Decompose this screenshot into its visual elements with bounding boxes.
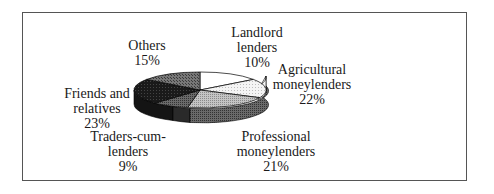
pie-top [134,72,266,108]
label-friends-line2: relatives [57,101,137,116]
label-others-line1: Others [122,38,172,53]
label-traders: Traders-cum- lenders 9% [88,129,168,174]
label-friends: Friends and relatives 23% [57,86,137,131]
label-agricultural-line1: Agricultural [272,62,352,77]
label-traders-pct: 9% [88,159,168,174]
label-others: Others 15% [122,38,172,68]
label-professional: Professional moneylenders 21% [236,129,316,174]
label-landlord-line1: Landlord [222,25,292,40]
label-professional-pct: 21% [236,159,316,174]
label-others-pct: 15% [122,53,172,68]
label-landlord-line2: lenders [222,40,292,55]
label-agricultural-line2: moneylenders [272,77,352,92]
label-agricultural: Agricultural moneylenders 22% [272,62,352,107]
label-traders-line2: lenders [88,144,168,159]
label-professional-line1: Professional [236,129,316,144]
label-professional-line2: moneylenders [236,144,316,159]
label-traders-line1: Traders-cum- [88,129,168,144]
label-friends-pct: 23% [57,116,137,131]
label-friends-line1: Friends and [57,86,137,101]
label-agricultural-pct: 22% [272,92,352,107]
